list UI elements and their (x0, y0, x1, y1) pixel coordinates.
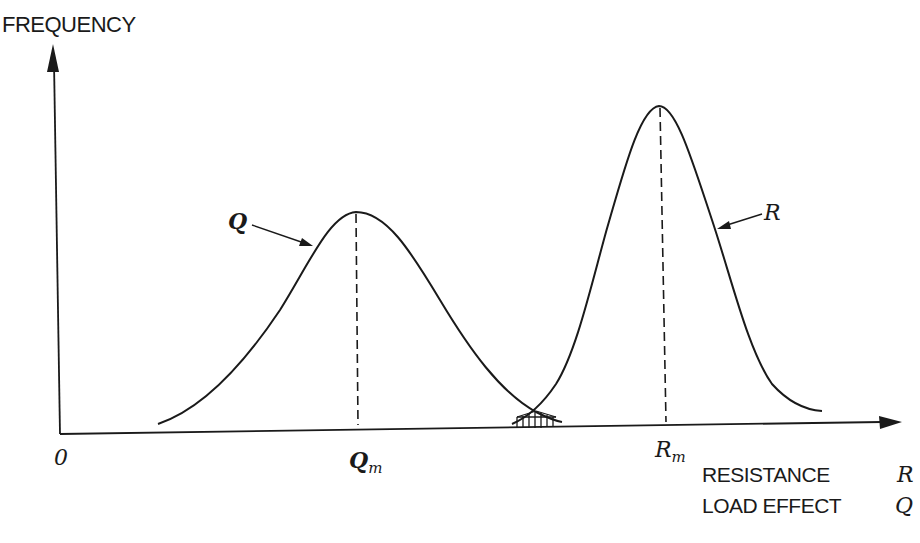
curve-q (158, 212, 562, 424)
x-axis-label-resistance: RESISTANCE (702, 463, 830, 487)
r-pointer-arrow (717, 214, 762, 229)
x-axis (60, 416, 902, 434)
diagram-svg (0, 0, 920, 543)
q-mean-dashed-line (356, 214, 358, 425)
y-axis-label: FREQUENCY (2, 12, 136, 38)
resistance-text: RESISTANCE (702, 463, 830, 486)
r-mean-label: Rm (655, 437, 686, 462)
y-axis (47, 44, 60, 434)
q-pointer-arrow (252, 225, 313, 246)
diagram-canvas: FREQUENCY 0 Q R Qm Rm RESISTANCE R LOAD … (0, 0, 920, 543)
q-mean-subscript: m (368, 459, 382, 477)
q-mean-symbol: Q (349, 447, 368, 473)
overlap-hatch (517, 411, 556, 428)
r-mean-dashed-line (660, 108, 666, 422)
curve-r (512, 106, 822, 424)
q-mean-label: Qm (349, 447, 382, 473)
r-mean-symbol: R (655, 437, 672, 462)
r-arrowhead-icon (717, 221, 731, 229)
q-curve-label: Q (228, 208, 247, 234)
r-curve-label: R (764, 200, 781, 225)
q-arrowhead-icon (299, 238, 313, 246)
origin-label: 0 (54, 445, 68, 470)
x-axis-arrow-icon (879, 416, 902, 429)
y-axis-arrow-icon (47, 44, 59, 72)
load-effect-text: LOAD EFFECT (702, 494, 841, 517)
resistance-symbol: R (897, 462, 914, 487)
load-effect-symbol: Q (895, 493, 913, 518)
x-axis-label-load-effect: LOAD EFFECT (702, 494, 841, 518)
r-mean-subscript: m (672, 448, 686, 466)
